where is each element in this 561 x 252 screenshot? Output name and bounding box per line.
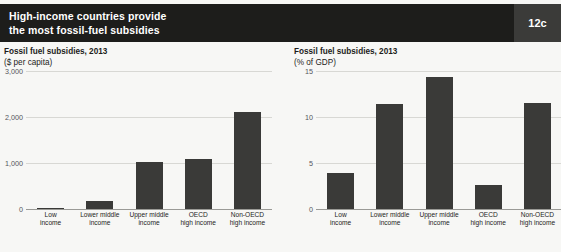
figure-container: High-income countries provide the most f… [0,0,561,252]
category-label: Lowincome [316,211,365,227]
category-label-line: Non-OECD [223,211,272,219]
bar [136,162,163,209]
bar-slot [174,71,223,209]
y-axis-tick-label: 15 [294,67,313,76]
category-label-line: Low [316,211,365,219]
category-label-line: income [365,219,414,227]
bar-slot [75,71,124,209]
category-label-line: OECD [174,211,223,219]
figure-number-badge: 12c [514,4,561,42]
y-axis-tick-label: 0 [4,205,23,214]
chart-right-category-axis: LowincomeLower middleincomeUpper middlei… [316,211,561,227]
category-label-line: high income [464,219,513,227]
category-label-line: Upper middle [414,211,463,219]
category-label-line: Lower middle [365,211,414,219]
category-label-line: high income [174,219,223,227]
category-label: Non-OECDhigh income [513,211,561,227]
category-label: Upper middleincome [124,211,173,227]
bar [475,185,502,209]
chart-left-bars [26,71,272,209]
category-label-line: high income [513,219,561,227]
bar [86,201,113,209]
chart-left-category-axis: LowincomeLower middleincomeUpper middlei… [26,211,272,227]
category-label-line: income [75,219,124,227]
bar [234,112,261,209]
bar-slot [223,71,272,209]
chart-left-plot: 01,0002,0003,000 [4,71,272,209]
category-label: Non-OECDhigh income [223,211,272,227]
y-axis-tick-label: 10 [294,113,313,122]
category-label-line: high income [223,219,272,227]
axis-baseline [26,209,272,210]
bar-slot [414,71,463,209]
category-label-line: income [26,219,75,227]
bar [524,103,551,209]
figure-number-label: 12c [528,17,546,29]
chart-right-bars [316,71,561,209]
category-label: Upper middleincome [414,211,463,227]
bar-slot [26,71,75,209]
axis-baseline [316,209,561,210]
y-axis-tick-label: 0 [294,205,313,214]
chart-right-title: Fossil fuel subsidies, 2013 [294,47,561,58]
chart-right-units: (% of GDP) [294,58,561,69]
bar-slot [316,71,365,209]
category-label: Lower middleincome [365,211,414,227]
chart-left-units: ($ per capita) [4,58,272,69]
y-axis-tick-label: 2,000 [4,113,23,122]
chart-panel-right: Fossil fuel subsidies, 2013 (% of GDP) 0… [294,47,561,247]
chart-panel-left: Fossil fuel subsidies, 2013 ($ per capit… [4,47,272,247]
y-axis-tick-label: 3,000 [4,67,23,76]
category-label-line: income [316,219,365,227]
chart-left-title: Fossil fuel subsidies, 2013 [4,47,272,58]
category-label: OECDhigh income [174,211,223,227]
bar [376,104,403,209]
bar-slot [464,71,513,209]
category-label-line: income [124,219,173,227]
bar [185,159,212,209]
bar [37,208,64,210]
bar-slot [124,71,173,209]
category-label-line: Upper middle [124,211,173,219]
figure-title-line-2: the most fossil-fuel subsidies [9,23,514,38]
category-label: Lowincome [26,211,75,227]
bar [327,173,354,209]
category-label-line: Low [26,211,75,219]
category-label: Lower middleincome [75,211,124,227]
chart-right-plot: 051015 [294,71,561,209]
bar [426,77,453,209]
category-label-line: Lower middle [75,211,124,219]
y-axis-tick-label: 5 [294,159,313,168]
bar-slot [513,71,561,209]
y-axis-tick-label: 1,000 [4,159,23,168]
bar-slot [365,71,414,209]
figure-title-line-1: High-income countries provide [9,9,514,24]
header-bar: High-income countries provide the most f… [0,4,561,42]
figure-title: High-income countries provide the most f… [0,9,514,38]
category-label-line: income [414,219,463,227]
category-label-line: OECD [464,211,513,219]
category-label-line: Non-OECD [513,211,561,219]
category-label: OECDhigh income [464,211,513,227]
